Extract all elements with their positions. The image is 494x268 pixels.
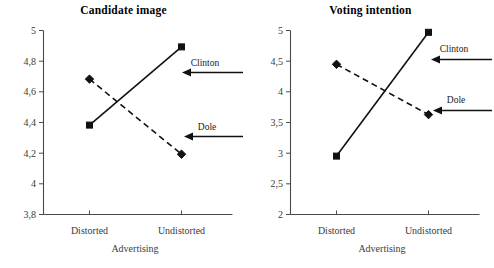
data-point-marker: [87, 122, 93, 128]
plot-area-voting-intention: 5 4,5 4 3,5 3 2,5 2: [247, 0, 494, 268]
series-line-clinton: [90, 47, 182, 125]
x-category-label-undistorted: Undistorted: [158, 225, 205, 236]
x-category-label-undistorted: Undistorted: [405, 225, 452, 236]
data-point-marker: [334, 153, 340, 159]
y-tick-label: 4: [31, 178, 36, 189]
series-line-dole: [337, 64, 429, 114]
annotation-label-dole: Dole: [447, 95, 465, 105]
data-point-marker: [424, 110, 432, 118]
annotation-label-dole: Dole: [198, 122, 216, 132]
y-tick-label: 3,8: [24, 209, 37, 220]
data-point-marker: [426, 29, 432, 35]
y-tick-label: 4,2: [24, 148, 37, 159]
annotation-clinton: Clinton: [182, 58, 243, 77]
annotation-dole: Dole: [433, 95, 492, 115]
annotation-arrow-head: [182, 68, 191, 76]
x-axis-ticks: [90, 211, 182, 215]
x-axis-ticks: [337, 211, 429, 215]
data-point-marker: [179, 44, 185, 50]
series-line-clinton: [337, 32, 429, 156]
annotation-arrow-head: [433, 106, 442, 114]
y-tick-label: 2: [278, 209, 283, 220]
series-line-dole: [90, 79, 182, 154]
x-axis-title: Advertising: [111, 243, 158, 254]
annotation-arrow-head: [184, 132, 193, 140]
y-tick-label: 3: [278, 148, 283, 159]
annotation-arrow-head: [431, 55, 440, 63]
y-tick-label: 4,6: [24, 86, 37, 97]
y-tick-label: 4,4: [24, 117, 37, 128]
y-axis-ticks: [286, 31, 291, 215]
x-category-label-distorted: Distorted: [318, 225, 355, 236]
y-tick-label: 4,5: [271, 56, 284, 67]
y-axis-tick-labels: 5 4,8 4,6 4,4 4,2 4 3,8: [24, 25, 37, 220]
y-tick-label: 5: [31, 25, 36, 36]
x-axis-title: Advertising: [358, 243, 405, 254]
chart-panel-voting-intention: Voting intention 5 4,5 4 3,5 3 2,5: [247, 0, 494, 268]
chart-panel-candidate-image: Candidate image 5 4,8 4,6 4,4 4,: [0, 0, 247, 268]
annotation-label-clinton: Clinton: [440, 44, 469, 54]
annotation-clinton: Clinton: [431, 44, 492, 64]
figure-two-panel-line-charts: Candidate image 5 4,8 4,6 4,4 4,: [0, 0, 494, 268]
y-tick-label: 4,8: [24, 56, 37, 67]
y-tick-label: 5: [278, 25, 283, 36]
y-axis-tick-labels: 5 4,5 4 3,5 3 2,5 2: [271, 25, 284, 220]
y-axis-ticks: [39, 31, 44, 215]
annotation-dole: Dole: [184, 122, 243, 141]
y-tick-label: 3,5: [271, 117, 284, 128]
y-tick-label: 2,5: [271, 178, 284, 189]
x-category-label-distorted: Distorted: [71, 225, 108, 236]
y-tick-label: 4: [278, 86, 283, 97]
annotation-label-clinton: Clinton: [191, 58, 220, 68]
plot-area-candidate-image: 5 4,8 4,6 4,4 4,2 4 3,8: [0, 0, 247, 268]
data-point-marker: [332, 60, 340, 68]
